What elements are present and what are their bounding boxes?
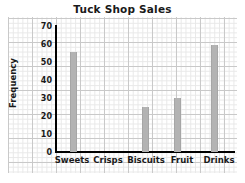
y-tick-40: 40 xyxy=(32,77,52,85)
x-label-sweets: Sweets xyxy=(52,155,92,165)
y-axis-title: Frequency xyxy=(8,48,18,118)
y-tick-10: 10 xyxy=(32,131,52,139)
x-label-drinks: Drinks xyxy=(198,155,240,165)
x-label-biscuits: Biscuits xyxy=(124,155,168,165)
x-label-crisps: Crisps xyxy=(88,155,128,165)
y-tick-30: 30 xyxy=(32,95,52,103)
bar-sweets xyxy=(70,52,77,152)
y-tick-60: 60 xyxy=(32,41,52,49)
bar-biscuits xyxy=(142,107,149,152)
y-tick-50: 50 xyxy=(32,59,52,67)
bar-series xyxy=(56,27,235,152)
bar-drinks xyxy=(211,45,218,152)
y-tick-70: 70 xyxy=(32,23,52,31)
bar-fruit xyxy=(174,98,181,152)
x-label-fruit: Fruit xyxy=(165,155,199,165)
y-axis-tick-labels: 70 60 50 40 30 20 10 0 xyxy=(28,0,52,183)
x-axis-tick-labels: Sweets Crisps Biscuits Fruit Drinks xyxy=(55,155,235,171)
y-tick-0: 0 xyxy=(32,149,52,157)
chart-figure: Tuck Shop Sales 70 60 50 40 30 20 10 0 F… xyxy=(0,0,245,183)
y-tick-20: 20 xyxy=(32,113,52,121)
